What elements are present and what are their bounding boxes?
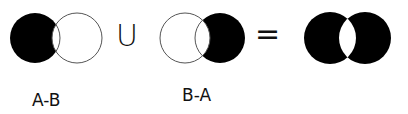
- union-symbol: U: [116, 18, 138, 53]
- venn-symmetric-difference: [304, 12, 391, 64]
- venn-b-minus-a: [160, 13, 245, 63]
- label-a-minus-b: A-B: [32, 90, 60, 110]
- label-b-minus-a: B-A: [182, 85, 211, 105]
- equals-symbol: =: [255, 16, 280, 51]
- venn-a-minus-b: [10, 13, 102, 63]
